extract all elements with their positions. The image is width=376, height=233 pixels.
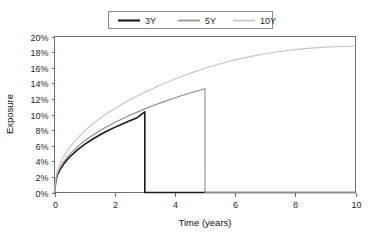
y-tick-label: 14%: [30, 79, 48, 89]
y-tick-label: 10%: [30, 111, 48, 121]
x-axis: 0246810: [53, 193, 362, 210]
chart-legend: 3Y5Y10Y: [109, 12, 277, 29]
y-axis: 0%2%4%6%8%10%12%14%16%18%20%: [30, 33, 54, 199]
y-tick-label: 18%: [30, 48, 48, 58]
x-tick-label: 0: [53, 200, 58, 210]
y-tick-label: 6%: [35, 142, 48, 152]
x-tick-label: 10: [351, 200, 361, 210]
legend-label-5y: 5Y: [205, 16, 216, 26]
series-line-5y: [55, 89, 356, 193]
exposure-profile-chart: 0%2%4%6%8%10%12%14%16%18%20% 0246810 Exp…: [0, 0, 376, 233]
y-tick-label: 8%: [35, 126, 48, 136]
x-tick-label: 4: [173, 200, 178, 210]
x-axis-title: Time (years): [179, 217, 232, 228]
y-tick-label: 16%: [30, 64, 48, 74]
y-tick-label: 2%: [35, 173, 48, 183]
y-axis-title: Exposure: [4, 94, 15, 134]
legend-label-3y: 3Y: [145, 16, 156, 26]
x-tick-label: 8: [293, 200, 298, 210]
y-tick-label: 0%: [35, 189, 48, 199]
y-tick-label: 12%: [30, 95, 48, 105]
y-tick-label: 20%: [30, 33, 48, 43]
chart-canvas: 0%2%4%6%8%10%12%14%16%18%20% 0246810 Exp…: [0, 0, 376, 233]
x-tick-label: 6: [233, 200, 238, 210]
series-layer: [55, 46, 356, 192]
x-tick-label: 2: [113, 200, 118, 210]
y-tick-label: 4%: [35, 157, 48, 167]
legend-label-10y: 10Y: [260, 16, 276, 26]
